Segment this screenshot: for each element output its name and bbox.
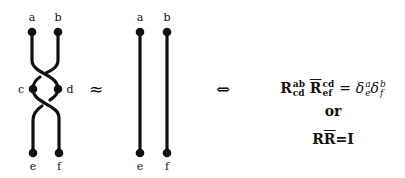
label-b: b bbox=[163, 12, 170, 23]
label-e: e bbox=[137, 161, 144, 172]
node-a bbox=[136, 28, 145, 37]
Rbar-symbol: R bbox=[324, 131, 336, 147]
delta-1: δ bbox=[356, 80, 364, 96]
R-symbol: R bbox=[280, 80, 292, 96]
iff-symbol: ⇔ bbox=[216, 81, 230, 98]
label-c: c bbox=[18, 84, 24, 95]
strand-c-f bbox=[33, 89, 59, 153]
R-indices: abcd bbox=[293, 80, 305, 98]
left-braid-diagram bbox=[32, 32, 59, 153]
R-subscript: cd bbox=[293, 89, 305, 98]
label-f: f bbox=[165, 161, 169, 172]
node-b bbox=[163, 28, 172, 37]
node-e bbox=[29, 149, 38, 158]
R-symbol: R bbox=[312, 131, 324, 147]
label-a: a bbox=[137, 12, 144, 23]
middle-straight-diagram bbox=[140, 32, 167, 153]
Rbar-symbol: R bbox=[310, 80, 322, 96]
node-b bbox=[54, 28, 63, 37]
Rbar-subscript: ef bbox=[323, 89, 335, 98]
node-f bbox=[55, 149, 64, 158]
delta-2-indices: bf bbox=[380, 80, 386, 98]
equals-sign: = bbox=[339, 80, 351, 96]
node-a bbox=[28, 28, 37, 37]
equals-identity: =I bbox=[336, 131, 354, 147]
label-f: f bbox=[57, 161, 61, 172]
approx-symbol: ≈ bbox=[89, 81, 103, 98]
strand-b-c-upper bbox=[46, 32, 58, 73]
equation-line-1: Rabcd Rcdef = δaeδbf bbox=[280, 80, 386, 98]
node-f bbox=[163, 149, 172, 158]
Rbar-indices: cdef bbox=[323, 80, 335, 98]
strand-d-e-lower bbox=[33, 106, 42, 153]
delta-2-subscript: f bbox=[380, 89, 386, 98]
equation-line-3: RR=I bbox=[312, 131, 354, 147]
label-b: b bbox=[54, 12, 61, 23]
or-text: or bbox=[325, 103, 342, 119]
label-d: d bbox=[66, 84, 73, 95]
delta-2: δ bbox=[371, 80, 379, 96]
node-c bbox=[29, 85, 38, 94]
label-a: a bbox=[29, 12, 36, 23]
node-d bbox=[54, 85, 63, 94]
node-e bbox=[136, 149, 145, 158]
label-e: e bbox=[30, 161, 37, 172]
